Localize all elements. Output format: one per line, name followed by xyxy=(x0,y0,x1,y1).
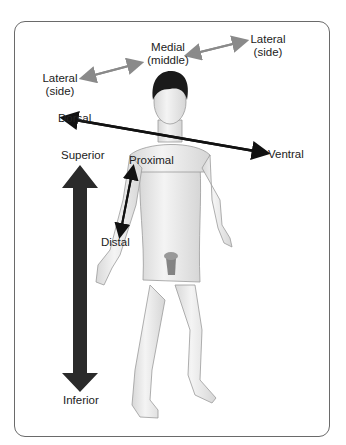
proximal-label: Proximal xyxy=(129,154,174,167)
medial-subtext: (middle) xyxy=(140,54,196,67)
superior-label: Superior xyxy=(61,149,104,162)
lateral-right-arrow xyxy=(188,41,245,55)
lateral-right-label: Lateral (side) xyxy=(246,33,290,59)
lateral-left-text: Lateral xyxy=(38,72,82,85)
medial-text: Medial xyxy=(140,41,196,54)
ventral-label: Ventral xyxy=(268,148,304,161)
lateral-left-label: Lateral (side) xyxy=(38,72,82,98)
body-figure xyxy=(96,80,232,418)
dorsal-label: Dorsal xyxy=(58,112,91,125)
distal-label: Distal xyxy=(101,236,130,249)
lateral-left-subtext: (side) xyxy=(38,85,82,98)
lateral-right-text: Lateral xyxy=(246,33,290,46)
superior-inferior-arrow xyxy=(62,165,98,392)
lateral-right-subtext: (side) xyxy=(246,46,290,59)
medial-left-arrow xyxy=(83,63,140,78)
inferior-label: Inferior xyxy=(63,394,99,407)
medial-label: Medial (middle) xyxy=(140,41,196,67)
